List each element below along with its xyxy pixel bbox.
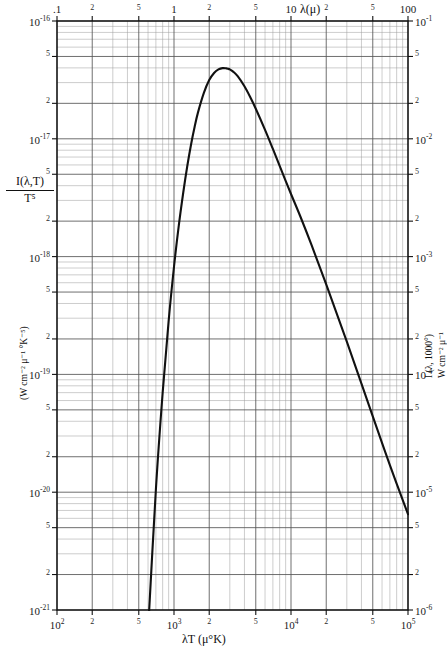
- axis-tick-marks: [52, 16, 413, 615]
- major-gridlines: [57, 21, 408, 610]
- x-tick-label-3: 103: [167, 618, 182, 631]
- right-tick-label-7: 5: [415, 286, 419, 294]
- y-tick-label-5: 2: [46, 215, 50, 223]
- y-tick-label-12: 10-20: [29, 486, 50, 499]
- y-tick-label-14: 2: [46, 569, 50, 577]
- x-tick-label-6: 104: [284, 618, 299, 631]
- data-curve: [148, 68, 408, 631]
- top-tick-label-8: 5: [371, 4, 375, 12]
- x-tick-label-2: 5: [137, 618, 141, 626]
- top-tick-label-2: 5: [137, 4, 141, 12]
- right-tick-label-12: 10-5: [415, 486, 432, 499]
- top-tick-label-0: .1: [53, 4, 61, 15]
- top-tick-label-5: 5: [254, 4, 258, 12]
- right-tick-label-6: 10-3: [415, 251, 432, 264]
- minor-gridlines: [57, 21, 408, 610]
- right-tick-label-13: 5: [415, 522, 419, 530]
- y-tick-label-15: 10-21: [29, 604, 50, 617]
- y-tick-label-8: 2: [46, 333, 50, 341]
- top-axis-title: λ(μ): [300, 2, 320, 17]
- y-tick-label-9: 10-19: [29, 368, 50, 381]
- y-tick-label-4: 5: [46, 168, 50, 176]
- right-tick-label-5: 2: [415, 215, 419, 223]
- top-tick-label-6: 10: [286, 4, 297, 15]
- y-tick-label-1: 5: [46, 50, 50, 58]
- top-tick-label-7: 2: [324, 4, 328, 12]
- top-tick-label-9: 100: [400, 4, 417, 15]
- right-tick-label-10: 5: [415, 404, 419, 412]
- right-tick-label-11: 2: [415, 451, 419, 459]
- top-tick-label-3: 1: [171, 4, 177, 15]
- y-axis-title-numerator: I(λ,T): [6, 175, 54, 191]
- x-tick-label-7: 2: [324, 618, 328, 626]
- top-tick-label-4: 2: [207, 4, 211, 12]
- x-tick-label-9: 105: [401, 618, 416, 631]
- y-axis-title: I(λ,T) T⁵: [6, 175, 54, 206]
- right-tick-label-15: 10-6: [415, 604, 432, 617]
- x-axis-title: λT (μ°K): [182, 632, 226, 647]
- y-tick-label-2: 2: [46, 97, 50, 105]
- x-tick-label-5: 5: [254, 618, 258, 626]
- right-tick-label-3: 10-2: [415, 133, 432, 146]
- right-tick-label-1: 5: [415, 50, 419, 58]
- x-tick-label-8: 5: [371, 618, 375, 626]
- x-tick-label-1: 2: [90, 618, 94, 626]
- x-tick-label-0: 102: [50, 618, 65, 631]
- y-tick-label-13: 5: [46, 522, 50, 530]
- right-tick-label-0: 10-1: [415, 15, 432, 28]
- y-tick-label-6: 10-18: [29, 251, 50, 264]
- right-axis-units: W cm⁻² μ⁻¹: [436, 332, 447, 378]
- x-tick-label-4: 2: [207, 618, 211, 626]
- right-tick-label-2: 2: [415, 97, 419, 105]
- y-tick-label-10: 5: [46, 404, 50, 412]
- right-tick-label-4: 5: [415, 168, 419, 176]
- plot-frame: [57, 21, 408, 610]
- y-tick-label-0: 10-16: [29, 15, 50, 28]
- right-tick-label-14: 2: [415, 569, 419, 577]
- right-tick-label-9: 10-4: [415, 368, 432, 381]
- y-axis-units: (W cm⁻² μ⁻¹ °K⁻⁵): [18, 326, 29, 400]
- right-tick-label-8: 2: [415, 333, 419, 341]
- top-tick-label-1: 2: [90, 4, 94, 12]
- y-tick-label-3: 10-17: [29, 133, 50, 146]
- y-axis-title-denominator: T⁵: [6, 191, 54, 206]
- y-tick-label-11: 2: [46, 451, 50, 459]
- y-tick-label-7: 5: [46, 286, 50, 294]
